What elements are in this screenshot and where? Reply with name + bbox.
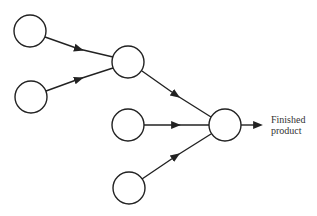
edge-n2-n3	[46, 68, 113, 91]
node-circle	[112, 109, 144, 141]
edge-n3-n5	[142, 71, 211, 117]
node-circle	[14, 15, 46, 47]
flow-diagram	[0, 0, 317, 216]
label-line-2: product	[271, 125, 305, 136]
edge-n6-n5	[142, 134, 211, 179]
node-circle	[209, 109, 241, 141]
node-circle	[15, 81, 47, 113]
label-line-1: Finished	[271, 114, 305, 125]
node-circle	[113, 172, 145, 204]
finished-product-label: Finished product	[271, 114, 305, 136]
node-circle	[112, 46, 144, 78]
edge-n1-n3	[45, 37, 113, 57]
